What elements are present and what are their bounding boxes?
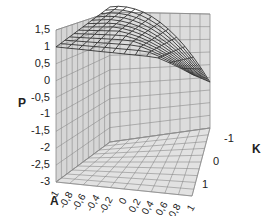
z-tick: -1 [16, 107, 50, 119]
z-tick: -3 [16, 175, 50, 187]
z-tick: 1,5 [16, 23, 50, 35]
y-axis-title: K [252, 142, 261, 156]
z-tick: -2,5 [16, 158, 50, 170]
z-tick: 0 [16, 74, 50, 86]
k-tick: 1 [202, 178, 208, 190]
z-tick: -2 [16, 141, 50, 153]
z-tick: -1,5 [16, 124, 50, 136]
k-tick: 0 [213, 155, 219, 167]
z-tick: 0,5 [16, 57, 50, 69]
z-tick: -0,5 [16, 91, 50, 103]
z-tick: 1 [16, 40, 50, 52]
k-tick: -1 [224, 132, 234, 144]
